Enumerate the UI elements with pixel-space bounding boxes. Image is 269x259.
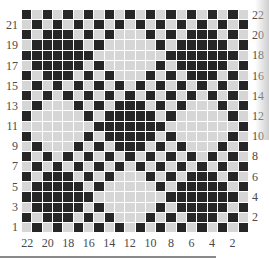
grid-cell [43, 122, 52, 131]
grid-cell [105, 40, 114, 49]
grid-cell [218, 81, 227, 90]
grid-cell [115, 172, 124, 181]
grid-cell [187, 61, 196, 70]
grid-cell [218, 111, 227, 120]
grid-cell [136, 10, 145, 19]
grid-cell [22, 91, 31, 100]
grid-cell [187, 152, 196, 161]
grid-cell [166, 30, 175, 39]
grid-cell [146, 51, 155, 60]
grid-cell [63, 10, 72, 19]
grid-cell [53, 132, 62, 141]
grid-cell [239, 101, 248, 110]
grid-cell [228, 20, 237, 29]
grid-cell [197, 162, 206, 171]
grid-cell [187, 111, 196, 120]
grid-cell [177, 213, 186, 222]
grid-cell [208, 30, 217, 39]
grid-cell [115, 10, 124, 19]
grid-cell [146, 111, 155, 120]
grid-cell [32, 142, 41, 151]
grid-cell [115, 101, 124, 110]
grid-cell [43, 81, 52, 90]
row-label-left: 7 [2, 160, 18, 172]
column-label: 16 [79, 237, 99, 249]
grid-cell [218, 91, 227, 100]
grid-cell [53, 203, 62, 212]
grid-cell [22, 152, 31, 161]
grid-cell [146, 162, 155, 171]
grid-cell [84, 142, 93, 151]
grid-cell [239, 111, 248, 120]
grid-cell [74, 192, 83, 201]
grid-cell [136, 172, 145, 181]
grid-cell [105, 20, 114, 29]
grid-cell [146, 101, 155, 110]
grid-cell [156, 10, 165, 19]
grid-cell [228, 172, 237, 181]
grid-cell [125, 111, 134, 120]
grid-cell [32, 152, 41, 161]
column-label: 4 [202, 237, 222, 249]
grid-cell [63, 91, 72, 100]
grid-cell [84, 152, 93, 161]
grid-cell [136, 30, 145, 39]
grid-cell [218, 10, 227, 19]
row-label-left: 19 [2, 39, 18, 51]
grid-cell [239, 91, 248, 100]
grid-cell [136, 203, 145, 212]
grid-cell [218, 223, 227, 232]
drawdown-grid [22, 10, 248, 232]
grid-cell [146, 122, 155, 131]
grid-cell [22, 213, 31, 222]
grid-cell [74, 40, 83, 49]
grid-cell [156, 152, 165, 161]
grid-cell [218, 40, 227, 49]
grid-cell [208, 152, 217, 161]
grid-cell [156, 122, 165, 131]
grid-cell [32, 71, 41, 80]
grid-cell [187, 203, 196, 212]
grid-cell [239, 40, 248, 49]
grid-cell [84, 162, 93, 171]
grid-cell [239, 30, 248, 39]
grid-cell [105, 203, 114, 212]
grid-cell [22, 192, 31, 201]
column-label: 22 [17, 237, 37, 249]
grid-cell [177, 51, 186, 60]
grid-cell [156, 61, 165, 70]
grid-cell [228, 81, 237, 90]
grid-cell [53, 10, 62, 19]
grid-cell [32, 81, 41, 90]
grid-cell [63, 172, 72, 181]
row-label-right: 6 [252, 171, 258, 183]
grid-cell [166, 142, 175, 151]
grid-cell [32, 172, 41, 181]
grid-cell [74, 132, 83, 141]
grid-cell [146, 213, 155, 222]
grid-cell [63, 111, 72, 120]
grid-cell [239, 223, 248, 232]
grid-cell [63, 61, 72, 70]
grid-cell [105, 71, 114, 80]
grid-cell [32, 91, 41, 100]
grid-cell [136, 213, 145, 222]
grid-cell [228, 30, 237, 39]
grid-cell [197, 91, 206, 100]
grid-cell [74, 81, 83, 90]
grid-cell [94, 172, 103, 181]
grid-cell [156, 71, 165, 80]
grid-cell [74, 203, 83, 212]
grid-cell [187, 91, 196, 100]
grid-cell [43, 10, 52, 19]
grid-cell [84, 61, 93, 70]
grid-cell [208, 101, 217, 110]
grid-cell [228, 162, 237, 171]
grid-cell [125, 71, 134, 80]
grid-cell [156, 132, 165, 141]
grid-cell [22, 172, 31, 181]
row-label-left: 13 [2, 100, 18, 112]
grid-cell [63, 30, 72, 39]
grid-cell [146, 81, 155, 90]
grid-cell [53, 192, 62, 201]
